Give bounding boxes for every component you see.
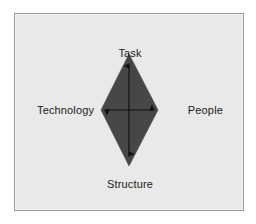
diagram-panel: Task Technology People Structure xyxy=(14,13,244,211)
node-label-task: Task xyxy=(15,47,245,59)
node-label-people: People xyxy=(188,104,223,116)
diagram-root: Task Technology People Structure xyxy=(0,0,256,224)
node-label-technology: Technology xyxy=(37,104,94,116)
node-label-structure: Structure xyxy=(15,178,245,190)
